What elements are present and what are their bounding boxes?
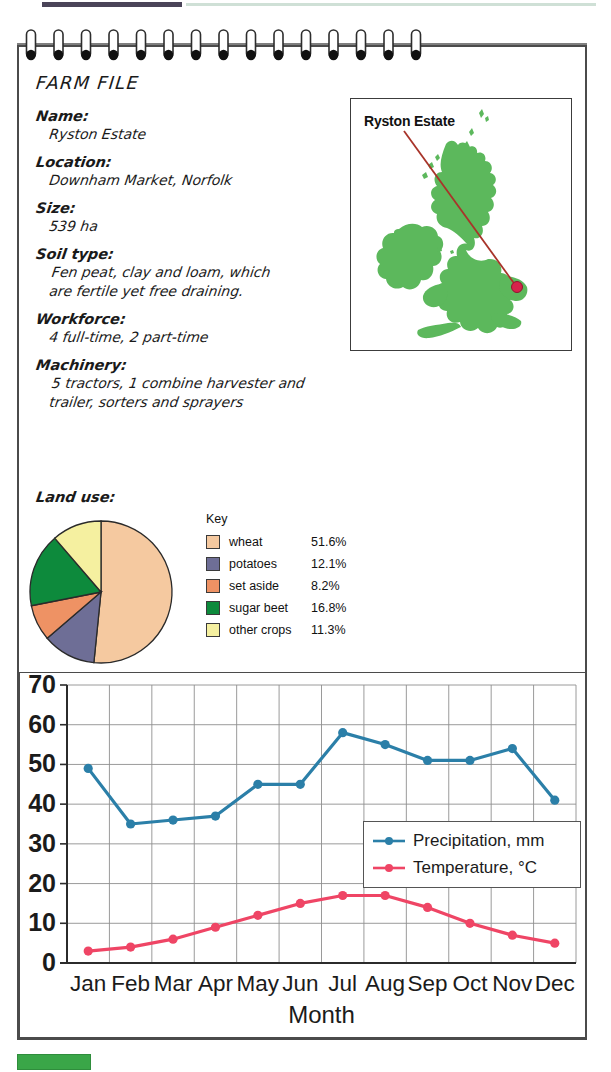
key-item-label: other crops bbox=[229, 623, 311, 637]
key-item-label: potatoes bbox=[229, 557, 311, 571]
uk-ireland-map-icon bbox=[351, 99, 571, 350]
legend-line-swatch bbox=[372, 834, 406, 848]
spiral-ring-end bbox=[219, 50, 229, 60]
farm-field: Location:Downham Market, Norfolk bbox=[35, 153, 365, 190]
key-row: sugar beet16.8% bbox=[206, 597, 355, 619]
spiral-binding-icon bbox=[17, 28, 587, 68]
data-point bbox=[168, 815, 177, 824]
key-row-list: wheat51.6%potatoes12.1%set aside8.2%suga… bbox=[206, 531, 355, 641]
farm-field-value: Fen peat, clay and loam, which are ferti… bbox=[48, 263, 370, 301]
y-axis-tick-label: 40 bbox=[28, 789, 56, 817]
chart-legend-row: Precipitation, mm bbox=[372, 827, 572, 854]
data-point bbox=[423, 903, 432, 912]
chart-legend: Precipitation, mmTemperature, °C bbox=[363, 821, 581, 888]
farm-field-label: Workforce: bbox=[35, 310, 368, 328]
page-title: FARM FILE bbox=[35, 72, 367, 93]
data-point bbox=[508, 744, 517, 753]
spiral-ring-end bbox=[81, 50, 91, 60]
key-color-swatch bbox=[206, 557, 220, 571]
spiral-ring-end bbox=[246, 50, 256, 60]
data-point bbox=[296, 899, 305, 908]
key-color-swatch bbox=[206, 601, 220, 615]
map-location-label: Ryston Estate bbox=[364, 113, 455, 129]
data-point bbox=[253, 911, 262, 920]
key-title: Key bbox=[206, 512, 355, 526]
pie-slice bbox=[94, 521, 172, 663]
spiral-ring-end bbox=[164, 50, 174, 60]
data-point bbox=[84, 946, 93, 955]
spiral-ring-end bbox=[301, 50, 311, 60]
y-axis-tick-label: 70 bbox=[28, 673, 56, 698]
key-item-percent: 51.6% bbox=[311, 535, 355, 549]
spiral-ring-end bbox=[329, 50, 339, 60]
farm-field: Soil type:Fen peat, clay and loam, which… bbox=[35, 245, 365, 301]
farm-field-label: Size: bbox=[35, 199, 368, 217]
data-point bbox=[508, 931, 517, 940]
key-item-percent: 16.8% bbox=[311, 601, 355, 615]
data-point bbox=[465, 756, 474, 765]
data-point bbox=[126, 819, 135, 828]
data-point bbox=[253, 780, 262, 789]
key-item-percent: 11.3% bbox=[311, 623, 355, 637]
y-axis-tick-label: 30 bbox=[28, 829, 56, 857]
x-axis-tick-label: Sep bbox=[408, 971, 448, 996]
data-point bbox=[381, 891, 390, 900]
data-point bbox=[550, 796, 559, 805]
land-use-pie-chart bbox=[27, 518, 175, 666]
data-point bbox=[211, 923, 220, 932]
farm-field-value: 4 full-time, 2 part-time bbox=[48, 328, 368, 347]
header-accent-bar-light bbox=[186, 3, 596, 6]
key-row: set aside8.2% bbox=[206, 575, 355, 597]
farm-field-value: 539 ha bbox=[48, 217, 368, 236]
data-point bbox=[211, 811, 220, 820]
x-axis-tick-label: Feb bbox=[111, 971, 150, 996]
bottom-green-tab bbox=[17, 1054, 91, 1070]
farm-field: Name:Ryston Estate bbox=[35, 107, 365, 144]
data-point bbox=[423, 756, 432, 765]
x-axis-tick-label: Jun bbox=[282, 971, 318, 996]
key-item-percent: 12.1% bbox=[311, 557, 355, 571]
key-row: wheat51.6% bbox=[206, 531, 355, 553]
x-axis-tick-label: Oct bbox=[452, 971, 488, 996]
data-point bbox=[465, 919, 474, 928]
farm-file-text-block: FARM FILE Name:Ryston EstateLocation:Dow… bbox=[35, 72, 365, 421]
spiral-ring-end bbox=[356, 50, 366, 60]
farm-field-label: Machinery: bbox=[35, 356, 368, 374]
farm-field-label: Name: bbox=[35, 107, 368, 125]
spiral-ring-end bbox=[191, 50, 201, 60]
farm-field-value: 5 tractors, 1 combine harvester and trai… bbox=[48, 374, 370, 412]
y-axis-tick-label: 20 bbox=[28, 869, 56, 897]
spiral-ring-end bbox=[411, 50, 421, 60]
x-axis-tick-label: May bbox=[237, 971, 280, 996]
farm-field-label: Location: bbox=[35, 153, 368, 171]
header-accent-bar-dark bbox=[42, 2, 182, 7]
spiral-ring-end bbox=[54, 50, 64, 60]
data-point bbox=[168, 935, 177, 944]
x-axis-title: Month bbox=[288, 1001, 355, 1028]
chart-legend-label: Precipitation, mm bbox=[413, 831, 544, 851]
y-axis-tick-label: 60 bbox=[28, 710, 56, 738]
key-item-label: wheat bbox=[229, 535, 311, 549]
farm-field: Size:539 ha bbox=[35, 199, 365, 236]
spiral-ring-end bbox=[274, 50, 284, 60]
data-point bbox=[126, 943, 135, 952]
map-inset: Ryston Estate bbox=[350, 98, 572, 351]
farm-field-list: Name:Ryston EstateLocation:Downham Marke… bbox=[35, 107, 365, 412]
y-axis-tick-label: 0 bbox=[42, 948, 56, 976]
data-point bbox=[550, 939, 559, 948]
spiral-ring-end bbox=[26, 50, 36, 60]
spiral-ring-end bbox=[109, 50, 119, 60]
key-color-swatch bbox=[206, 623, 220, 637]
key-row: other crops11.3% bbox=[206, 619, 355, 641]
data-point bbox=[338, 728, 347, 737]
land-use-label: Land use: bbox=[35, 489, 117, 505]
x-axis-tick-label: Apr bbox=[198, 971, 234, 996]
chart-legend-rows: Precipitation, mmTemperature, °C bbox=[372, 827, 572, 881]
key-item-label: set aside bbox=[229, 579, 311, 593]
key-color-swatch bbox=[206, 579, 220, 593]
y-axis-tick-label: 50 bbox=[28, 749, 56, 777]
farm-field-value: Ryston Estate bbox=[48, 125, 368, 144]
pie-chart-key: Key wheat51.6%potatoes12.1%set aside8.2%… bbox=[206, 512, 355, 641]
data-point bbox=[381, 740, 390, 749]
chart-legend-row: Temperature, °C bbox=[372, 854, 572, 881]
